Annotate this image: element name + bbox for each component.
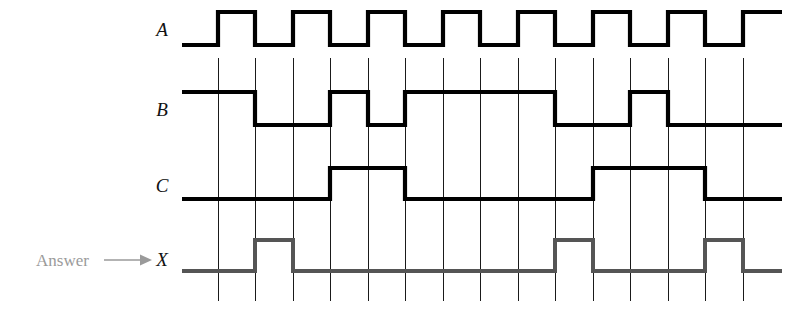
waveform-c [182, 168, 782, 199]
timing-diagram-figure: ABCX Answer [0, 0, 802, 323]
answer-annotation: Answer [36, 251, 152, 270]
waveform-a [182, 12, 782, 45]
waveform-b [182, 92, 782, 125]
signal-label-b: B [156, 99, 168, 120]
signal-label-a: A [154, 19, 168, 40]
waveform-x [182, 240, 782, 271]
signal-labels-group: ABCX [154, 19, 169, 270]
signal-label-c: C [156, 175, 169, 196]
right-arrow-icon-head [140, 255, 152, 266]
timing-diagram-svg: ABCX Answer [0, 0, 802, 323]
answer-label: Answer [36, 251, 89, 270]
grid-lines-group [218, 58, 743, 301]
signal-label-x: X [155, 249, 169, 270]
waveforms-group [182, 12, 782, 271]
